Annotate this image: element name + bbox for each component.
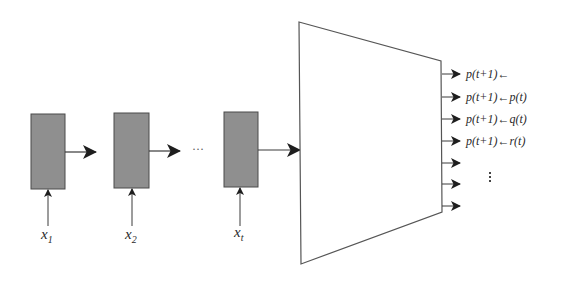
output-label-2: p(t+1)←p(t) — [466, 90, 527, 104]
cell-box-t — [224, 112, 258, 187]
sequence-ellipsis: ··· — [192, 142, 204, 157]
dot — [489, 180, 491, 182]
cell-box-1 — [31, 114, 65, 189]
input-var: x — [234, 224, 241, 240]
output-layer-trapezoid — [299, 22, 442, 264]
rnn-cell-2 — [114, 113, 180, 226]
input-label-2: x2 — [125, 226, 137, 245]
output-arrows — [442, 74, 460, 206]
input-var: x — [41, 226, 48, 242]
input-label-t: xt — [234, 224, 243, 243]
output-label-4: p(t+1)←r(t) — [466, 134, 525, 148]
rnn-cell-1 — [31, 114, 96, 226]
dot — [489, 172, 491, 174]
input-subscript: t — [241, 232, 244, 243]
cell-box-2 — [114, 113, 149, 188]
rnn-cell-t — [224, 112, 300, 226]
input-var: x — [125, 226, 132, 242]
output-ellipsis — [489, 172, 491, 184]
output-label-1: p(t+1)← — [466, 67, 509, 81]
output-label-3: p(t+1)←q(t) — [466, 112, 527, 126]
input-subscript: 1 — [48, 234, 53, 245]
input-subscript: 2 — [132, 234, 137, 245]
dot — [489, 176, 491, 178]
input-label-1: x1 — [41, 226, 53, 245]
